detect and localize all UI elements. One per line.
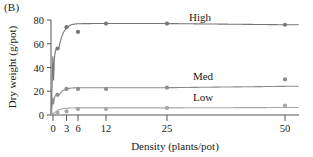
data-point bbox=[55, 46, 59, 50]
x-tick-label-25: 25 bbox=[162, 123, 173, 134]
x-axis-title: Density (plants/pot) bbox=[131, 140, 219, 153]
y-axis-title: Dry weight (g/pot) bbox=[6, 25, 19, 108]
x-tick-label-6: 6 bbox=[75, 123, 80, 134]
series-line-med bbox=[51, 86, 298, 115]
data-point bbox=[64, 87, 68, 91]
x-axis-ticks bbox=[53, 115, 285, 121]
data-point bbox=[104, 107, 108, 111]
series-label-med: Med bbox=[193, 70, 214, 82]
dry-weight-vs-density-chart: 80 60 40 20 0 0 3 6 12 25 50 Density (pl… bbox=[0, 0, 313, 157]
data-point bbox=[76, 30, 80, 34]
figure-panel-b: (B) 80 60 40 20 0 0 3 bbox=[0, 0, 313, 157]
data-point bbox=[283, 103, 287, 107]
x-tick-label-0: 0 bbox=[50, 123, 55, 134]
data-point bbox=[76, 107, 80, 111]
data-point bbox=[283, 77, 287, 81]
data-point bbox=[64, 25, 68, 29]
y-tick-label-20: 20 bbox=[34, 86, 45, 97]
y-tick-label-40: 40 bbox=[34, 63, 45, 74]
series-line-high bbox=[51, 24, 298, 115]
data-point bbox=[64, 109, 68, 113]
y-tick-label-80: 80 bbox=[34, 15, 45, 26]
data-point bbox=[104, 87, 108, 91]
y-axis-ticks bbox=[47, 20, 51, 115]
data-point bbox=[55, 111, 59, 115]
y-tick-label-60: 60 bbox=[34, 39, 45, 50]
series-line-low bbox=[51, 108, 298, 115]
series-low bbox=[51, 103, 298, 115]
data-point bbox=[165, 86, 169, 90]
series-label-high: High bbox=[189, 11, 212, 23]
series-layer bbox=[51, 21, 298, 115]
x-tick-label-50: 50 bbox=[280, 123, 291, 134]
x-tick-label-12: 12 bbox=[101, 123, 112, 134]
data-point bbox=[76, 87, 80, 91]
data-point bbox=[104, 21, 108, 25]
series-high bbox=[51, 21, 298, 115]
data-point bbox=[283, 23, 287, 27]
data-point bbox=[165, 106, 169, 110]
data-point bbox=[165, 21, 169, 25]
series-med bbox=[51, 77, 298, 115]
x-tick-label-3: 3 bbox=[64, 123, 69, 134]
data-point bbox=[55, 93, 59, 97]
series-label-low: Low bbox=[193, 91, 213, 103]
y-tick-label-0: 0 bbox=[39, 110, 44, 121]
